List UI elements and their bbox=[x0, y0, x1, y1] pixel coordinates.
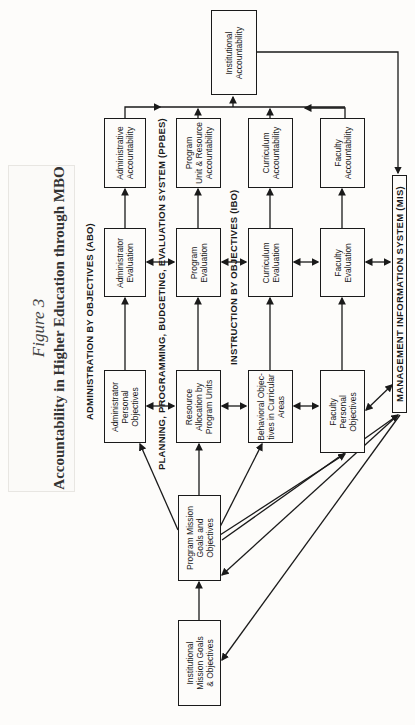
node-administrator-evaluation: AdministratorEvaluation bbox=[104, 228, 146, 297]
node-faculty-accountability: FacultyAccountability bbox=[320, 118, 365, 188]
node-curriculum-accountability: CurriculumAccountability bbox=[248, 118, 293, 188]
node-management-information-system: MANAGEMENT INFORMATION SYSTEM (MIS) bbox=[392, 175, 407, 413]
node-behavioral-objectives: Behavioral Objec-tives in CurricularArea… bbox=[248, 370, 293, 443]
section-label-ppbes: PLANNING, PROGRAMMING, BUDGETING, EVALUA… bbox=[156, 118, 167, 470]
node-resource-allocation: ResourceAllocation byProgram Units bbox=[176, 370, 221, 443]
section-label-abo: ADMINISTRATION BY OBJECTIVES (ABO) bbox=[84, 223, 95, 420]
node-administrative-accountability: AdministrativeAccountability bbox=[104, 118, 146, 188]
node-curriculum-evaluation: CurriculumEvaluation bbox=[248, 228, 293, 297]
node-administrator-personal-objectives: AdministratorPersonalObjectives bbox=[104, 370, 146, 443]
node-program-unit-resource-accountability: ProgramUnit & ResourceAccountability bbox=[176, 118, 221, 188]
section-label-ibo: INSTRUCTION BY OBJECTIVES (IBO) bbox=[228, 190, 239, 365]
node-program-evaluation: ProgramEvaluation bbox=[176, 228, 221, 297]
node-institutional-accountability: InstitutionalAccountability bbox=[211, 10, 257, 95]
node-faculty-personal-objectives: FacultyPersonalObjectives bbox=[320, 370, 365, 453]
connector-arrows bbox=[0, 0, 415, 725]
node-program-mission-goals: Program MissionGoals andObjectives bbox=[178, 495, 221, 581]
node-institutional-mission-goals: InstitutionalMission Goals& Objectives bbox=[178, 620, 221, 706]
node-faculty-evaluation: FacultyEvaluation bbox=[320, 228, 365, 297]
